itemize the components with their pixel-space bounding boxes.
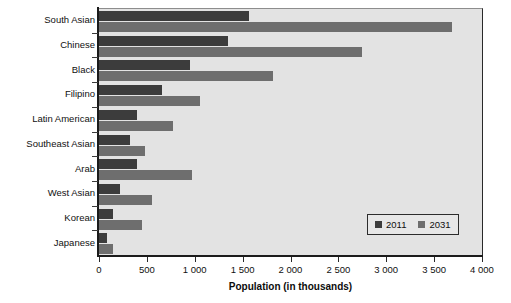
x-axis-tick-label: 3 000 <box>361 264 411 275</box>
x-axis-tick <box>147 257 148 262</box>
bar-group <box>0 82 511 107</box>
bar-2031 <box>99 47 362 57</box>
bar-2031 <box>99 244 113 254</box>
bar-2011 <box>99 60 190 70</box>
population-bar-chart: South AsianChineseBlackFilipinoLatin Ame… <box>0 0 511 303</box>
legend-entry: 2011 <box>375 220 406 230</box>
x-axis-tick-label: 1 000 <box>170 264 220 275</box>
bar-2011 <box>99 233 107 243</box>
bar-group <box>0 33 511 58</box>
bar-2011 <box>99 36 228 46</box>
bar-group <box>0 132 511 157</box>
x-axis-tick-label: 4 000 <box>457 264 507 275</box>
bar-2011 <box>99 85 162 95</box>
bar-group <box>0 107 511 132</box>
bar-2031 <box>99 146 145 156</box>
bar-2031 <box>99 121 173 131</box>
bar-2031 <box>99 96 200 106</box>
x-axis-tick <box>195 257 196 262</box>
bar-group <box>0 156 511 181</box>
bar-group <box>0 8 511 33</box>
bar-2031 <box>99 220 142 230</box>
legend-swatch-icon <box>375 221 382 228</box>
bar-2011 <box>99 135 130 145</box>
x-axis-title: Population (in thousands) <box>99 281 482 292</box>
x-axis-tick <box>338 257 339 262</box>
x-axis-tick <box>291 257 292 262</box>
x-axis-tick-label: 2 500 <box>313 264 363 275</box>
x-axis-tick-label: 0 <box>74 264 124 275</box>
bar-2011 <box>99 159 137 169</box>
x-axis-tick-label: 500 <box>122 264 172 275</box>
bar-2011 <box>99 11 249 21</box>
x-axis-tick-label: 3 500 <box>409 264 459 275</box>
x-axis-tick <box>243 257 244 262</box>
x-axis-tick-label: 2 000 <box>266 264 316 275</box>
x-axis-tick <box>386 257 387 262</box>
bar-2031 <box>99 195 152 205</box>
bar-2011 <box>99 110 137 120</box>
x-axis-tick <box>99 257 100 262</box>
bar-group <box>0 181 511 206</box>
legend-label: 2011 <box>386 220 406 230</box>
legend-entry: 2031 <box>418 220 450 230</box>
bar-2011 <box>99 209 113 219</box>
x-axis-tick <box>482 257 483 262</box>
x-axis-tick-label: 1 500 <box>218 264 268 275</box>
bar-2031 <box>99 170 192 180</box>
chart-legend: 20112031 <box>367 214 459 235</box>
bar-2011 <box>99 184 120 194</box>
legend-swatch-icon <box>418 221 425 228</box>
x-axis-tick <box>434 257 435 262</box>
legend-label: 2031 <box>429 220 450 230</box>
bar-2031 <box>99 22 452 32</box>
bar-2031 <box>99 71 273 81</box>
bar-group <box>0 57 511 82</box>
